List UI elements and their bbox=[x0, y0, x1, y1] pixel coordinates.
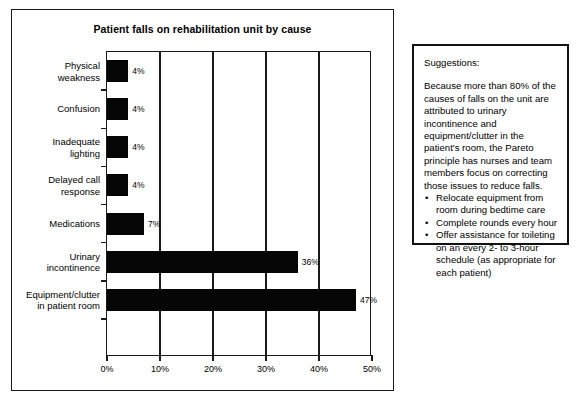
chart-bar bbox=[107, 98, 128, 120]
chart-bar-row: Confusion4% bbox=[107, 90, 370, 128]
x-axis-tick bbox=[265, 355, 267, 361]
x-axis-label: 40% bbox=[310, 364, 328, 374]
y-axis-category-label: Delayed callresponse bbox=[48, 174, 100, 197]
x-axis-tick bbox=[159, 355, 161, 361]
x-axis-tick bbox=[318, 355, 320, 361]
x-axis-tick bbox=[212, 355, 214, 361]
suggestion-list-item: •Complete rounds every hour bbox=[424, 217, 558, 229]
chart-bar bbox=[107, 174, 128, 196]
chart-bar-value-label: 4% bbox=[128, 142, 144, 152]
suggestions-list: •Relocate equipment from room during bed… bbox=[424, 192, 558, 279]
suggestions-heading: Suggestions: bbox=[424, 57, 558, 69]
x-axis-label: 10% bbox=[151, 364, 169, 374]
chart-bar-value-label: 47% bbox=[356, 295, 377, 305]
x-axis-tick bbox=[106, 355, 108, 361]
y-axis-category-label: Medications bbox=[49, 218, 100, 230]
chart-plot-area: 0%10%20%30%40%50%Physicalweakness4%Confu… bbox=[106, 51, 371, 356]
y-axis-tick bbox=[101, 318, 107, 320]
bullet-icon: • bbox=[425, 192, 428, 204]
bullet-icon: • bbox=[425, 229, 428, 241]
chart-bar bbox=[107, 251, 298, 273]
chart-bar-value-label: 36% bbox=[298, 257, 319, 267]
x-axis-label: 50% bbox=[363, 364, 381, 374]
chart-bar bbox=[107, 60, 128, 82]
chart-title: Patient falls on rehabilitation unit by … bbox=[12, 23, 393, 35]
chart-bar-row: Urinaryincontinence36% bbox=[107, 243, 370, 281]
suggestions-panel: Suggestions: Because more than 80% of th… bbox=[412, 44, 569, 245]
y-axis-category-label: Urinaryincontinence bbox=[47, 250, 100, 273]
chart-bar bbox=[107, 136, 128, 158]
chart-panel: Patient falls on rehabilitation unit by … bbox=[11, 9, 394, 391]
chart-bar bbox=[107, 213, 144, 235]
x-axis-label: 30% bbox=[257, 364, 275, 374]
chart-bar-row: Inadequatelighting4% bbox=[107, 128, 370, 166]
y-axis-category-label: Physicalweakness bbox=[58, 60, 100, 83]
bullet-icon: • bbox=[425, 217, 428, 229]
chart-bar-value-label: 4% bbox=[128, 104, 144, 114]
y-axis-category-label: Equipment/clutterin patient room bbox=[26, 288, 100, 311]
chart-bar-value-label: 4% bbox=[128, 66, 144, 76]
x-axis-tick bbox=[371, 355, 373, 361]
chart-bar bbox=[107, 289, 356, 311]
x-axis-label: 20% bbox=[204, 364, 222, 374]
x-axis-label: 0% bbox=[100, 364, 113, 374]
chart-bar-value-label: 4% bbox=[128, 180, 144, 190]
suggestion-list-item: •Offer assistance for toileting on an ev… bbox=[424, 229, 558, 279]
chart-bar-value-label: 7% bbox=[144, 219, 160, 229]
y-axis-category-label: Inadequatelighting bbox=[52, 136, 100, 159]
chart-bar-row: Equipment/clutterin patient room47% bbox=[107, 281, 370, 319]
chart-bar-row: Medications7% bbox=[107, 205, 370, 243]
suggestions-body-text: Because more than 80% of the causes of f… bbox=[424, 80, 558, 192]
suggestion-list-item: •Relocate equipment from room during bed… bbox=[424, 192, 558, 217]
y-axis-category-label: Confusion bbox=[57, 103, 100, 115]
chart-bar-row: Delayed callresponse4% bbox=[107, 166, 370, 204]
chart-bar-row: Physicalweakness4% bbox=[107, 52, 370, 90]
